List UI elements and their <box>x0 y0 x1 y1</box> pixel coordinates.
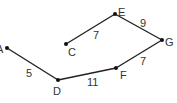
node-label-a: A <box>0 43 4 55</box>
edge-a-d <box>7 48 58 80</box>
node-label-f: F <box>120 69 127 81</box>
edge-weight-a-d: 5 <box>26 67 32 79</box>
node-d <box>56 78 60 82</box>
edge-weight-e-c: 7 <box>93 29 99 41</box>
node-label-d: D <box>53 85 61 97</box>
edge-weight-g-e: 9 <box>140 17 146 29</box>
node-f <box>114 66 118 70</box>
edge-weight-f-g: 7 <box>140 55 146 67</box>
node-a <box>5 46 9 50</box>
node-label-g: G <box>165 36 174 48</box>
edge-weight-d-f: 11 <box>87 76 98 88</box>
node-label-c: C <box>68 46 76 58</box>
edge-e-c <box>66 14 115 44</box>
node-e <box>113 12 117 16</box>
edge-f-g <box>116 40 162 68</box>
node-label-e: E <box>118 6 125 18</box>
graph-diagram: A D F G E C 5 11 7 9 7 <box>0 0 177 103</box>
node-g <box>160 38 164 42</box>
